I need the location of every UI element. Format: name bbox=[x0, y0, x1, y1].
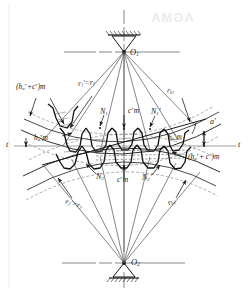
label-addendum-plus-clearance-bottom: (ha*+ c*)m bbox=[188, 153, 219, 161]
label-pressure-angle: a' bbox=[210, 118, 216, 126]
label-clearance-top: c*m bbox=[128, 107, 139, 115]
label-addendum-left: ha*m bbox=[34, 134, 48, 142]
center-label-O1: O1 bbox=[130, 48, 139, 57]
pitch-line-label-left: t bbox=[6, 141, 8, 149]
label-point-N2-prime: N2' bbox=[142, 174, 152, 183]
gear-meshing-diagram bbox=[0, 0, 249, 293]
label-point-N2: N2 bbox=[96, 173, 104, 182]
label-addendum-right: ha*m bbox=[168, 133, 182, 142]
figure-background bbox=[0, 0, 249, 293]
label-point-N1-prime: N1' bbox=[151, 108, 161, 117]
scan-bleedthrough-watermark: AGMA bbox=[150, 10, 194, 25]
label-pitch-radius-1: r1'=r1 bbox=[78, 78, 96, 88]
label-clearance-bottom: c*m bbox=[117, 176, 128, 184]
center-label-O2: O2 bbox=[131, 258, 140, 267]
label-point-N1: N1 bbox=[100, 108, 108, 117]
label-addendum-plus-clearance-top: (ha*+c*)m bbox=[16, 83, 46, 91]
pitch-line-label-right: t bbox=[238, 141, 240, 149]
